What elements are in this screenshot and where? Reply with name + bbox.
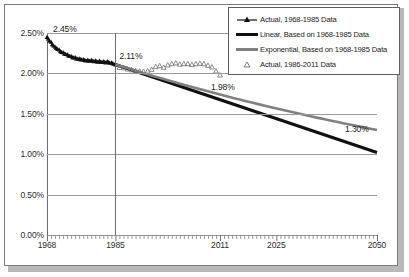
open-triangle-marker	[149, 67, 154, 71]
open-triangle-marker	[185, 61, 190, 65]
gray-line-swatch	[236, 48, 258, 51]
open-triangle-marker	[157, 63, 162, 67]
gridline	[47, 195, 377, 196]
y-axis-tick-label: 2.00%	[20, 68, 44, 78]
open-triangle-marker	[165, 63, 170, 67]
filled-triangle-marker	[235, 15, 259, 25]
legend-item: Actual, 1986-2011 Data	[234, 57, 394, 72]
y-axis-tick-label: 1.50%	[20, 109, 44, 119]
black-line-swatch	[234, 33, 260, 36]
data-annotation: 1.98%	[211, 82, 235, 92]
filled-triangle-marker	[234, 15, 260, 25]
gray-line-swatch	[234, 48, 260, 51]
open-triangle-marker	[234, 60, 260, 70]
black-line-swatch	[236, 33, 258, 36]
y-axis-tick-label: 1.00%	[20, 149, 44, 159]
legend-item-label: Actual, 1986-2011 Data	[260, 60, 336, 69]
reference-line-1985	[115, 33, 116, 235]
x-axis-tick-label: 2025	[267, 240, 286, 250]
legend-item: Exponential, Based on 1968-1985 Data	[234, 42, 394, 57]
y-axis-tick-labels: 0.00%0.50%1.00%1.50%2.00%2.50%	[0, 33, 44, 235]
legend-item-label: Exponential, Based on 1968-1985 Data	[260, 45, 387, 54]
open-triangle-marker	[202, 61, 207, 65]
open-triangle-marker	[198, 61, 203, 65]
data-annotation: 2.45%	[53, 24, 77, 34]
data-annotation: 2.11%	[119, 51, 142, 61]
legend-item: Linear, Based on 1968-1985 Data	[234, 27, 394, 42]
chart-legend: Actual, 1968-1985 DataLinear, Based on 1…	[228, 7, 400, 75]
legend-item-label: Linear, Based on 1968-1985 Data	[260, 30, 369, 39]
data-annotation: 1.30%	[345, 124, 369, 134]
y-axis-tick-label: 0.50%	[20, 190, 44, 200]
chart-screenshot: 0.00%0.50%1.00%1.50%2.00%2.50% 2.45%2.11…	[0, 0, 409, 277]
x-axis-tick-label: 1985	[106, 240, 125, 250]
open-triangle-marker	[173, 60, 178, 64]
y-axis-tick-label: 0.00%	[20, 230, 44, 240]
y-axis-tick-label: 2.50%	[20, 28, 44, 38]
gridline	[47, 154, 377, 155]
x-axis-tick-label: 2011	[211, 240, 229, 250]
x-axis-tick-label: 1968	[38, 240, 57, 250]
legend-item: Actual, 1968-1985 Data	[234, 12, 394, 27]
legend-item-label: Actual, 1968-1985 Data	[260, 15, 337, 24]
gridline	[47, 114, 377, 115]
x-axis-tick-labels: 19681985201120252050	[47, 240, 378, 254]
x-axis-tick-label: 2050	[368, 240, 387, 250]
open-triangle-marker	[235, 60, 259, 70]
